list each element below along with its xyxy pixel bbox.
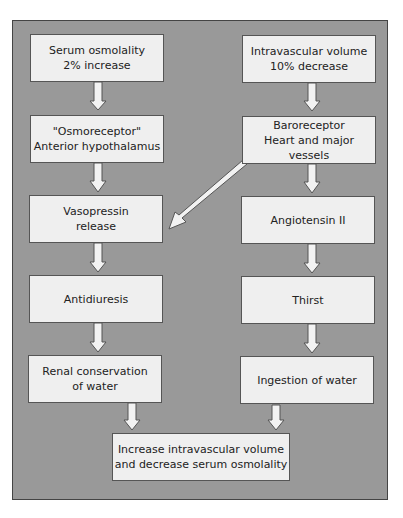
box-osmoreceptor: "Osmoreceptor" Anterior hypothalamus [30, 115, 164, 163]
box-baroreceptor: Baroreceptor Heart and major vessels [242, 116, 376, 164]
diagram-panel [12, 20, 388, 500]
box-renal-conservation: Renal conservation of water [28, 355, 162, 403]
box-intravascular-volume: Intravascular volume 10% decrease [242, 35, 376, 83]
box-serum-osmolality: Serum osmolality 2% increase [30, 34, 164, 82]
box-vasopressin: Vasopressin release [29, 195, 163, 243]
box-antidiuresis: Antidiuresis [29, 275, 163, 323]
box-angiotensin: Angiotensin II [241, 196, 375, 244]
box-thirst: Thirst [241, 276, 375, 324]
box-outcome: Increase intravascular volume and decrea… [112, 433, 290, 481]
box-ingestion: Ingestion of water [240, 356, 374, 404]
